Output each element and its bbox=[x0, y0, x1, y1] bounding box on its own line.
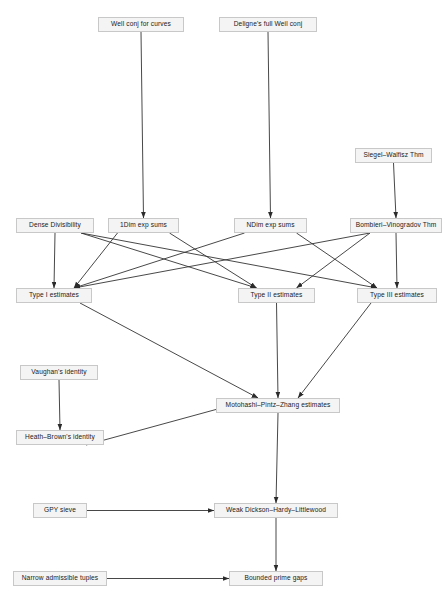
node-narrow_tuples[interactable]: Narrow admissible tuples bbox=[13, 571, 107, 586]
node-gpy_sieve[interactable]: GPY sieve bbox=[33, 503, 87, 518]
node-ndim_exp_sums[interactable]: NDim exp sums bbox=[234, 218, 307, 233]
node-mpz[interactable]: Motohashi–Pintz–Zhang estimates bbox=[216, 398, 340, 413]
node-deligne_weil[interactable]: Deligne's full Weil conj bbox=[219, 17, 317, 32]
node-bombieri_vinogradov[interactable]: Bombieri–Vinogradov Thm bbox=[350, 218, 442, 233]
node-label: Dense Divisibility bbox=[29, 222, 81, 229]
node-label: Heath–Brown's identity bbox=[25, 434, 95, 441]
node-label: Siegel–Walfisz Thm bbox=[363, 152, 423, 159]
node-label: 1Dim exp sums bbox=[120, 222, 167, 229]
node-type_ii[interactable]: Type II estimates bbox=[238, 288, 315, 303]
node-label: Vaughan's identity bbox=[31, 369, 86, 376]
node-type_i[interactable]: Type I estimates bbox=[16, 288, 92, 303]
node-type_iii[interactable]: Type III estimates bbox=[357, 288, 437, 303]
node-label: Type I estimates bbox=[29, 292, 79, 299]
node-label: Bounded prime gaps bbox=[244, 575, 307, 582]
node-onedim_exp_sums[interactable]: 1Dim exp sums bbox=[108, 218, 179, 233]
node-heath_brown[interactable]: Heath–Brown's identity bbox=[16, 430, 104, 445]
node-siegel_walfisz[interactable]: Siegel–Walfisz Thm bbox=[355, 148, 432, 163]
node-label: GPY sieve bbox=[44, 507, 76, 514]
node-label: Narrow admissible tuples bbox=[22, 575, 99, 582]
node-layer: Well conj for curvesDeligne's full Weil … bbox=[0, 0, 445, 606]
node-vaughan[interactable]: Vaughan's identity bbox=[20, 365, 98, 380]
dependency-diagram: Well conj for curvesDeligne's full Weil … bbox=[0, 0, 445, 606]
node-bounded_gaps[interactable]: Bounded prime gaps bbox=[229, 571, 323, 586]
node-label: Motohashi–Pintz–Zhang estimates bbox=[226, 402, 331, 409]
node-well_conj_curves[interactable]: Well conj for curves bbox=[98, 17, 184, 32]
node-label: Type II estimates bbox=[251, 292, 303, 299]
node-label: Type III estimates bbox=[370, 292, 424, 299]
node-weak_dhl[interactable]: Weak Dickson–Hardy–Littlewood bbox=[214, 503, 338, 518]
node-label: Bombieri–Vinogradov Thm bbox=[356, 222, 437, 229]
node-label: Well conj for curves bbox=[111, 21, 171, 28]
node-dense_divisibility[interactable]: Dense Divisibility bbox=[16, 218, 94, 233]
node-label: NDim exp sums bbox=[246, 222, 294, 229]
node-label: Deligne's full Weil conj bbox=[234, 21, 303, 28]
node-label: Weak Dickson–Hardy–Littlewood bbox=[226, 507, 326, 514]
